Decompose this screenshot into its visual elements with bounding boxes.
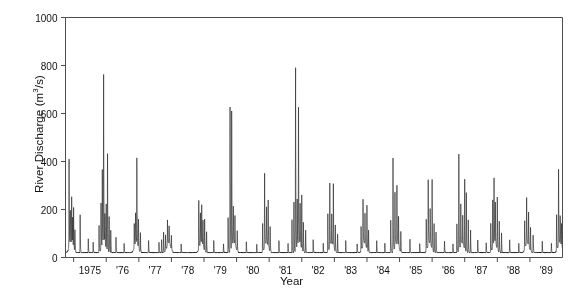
x-tick-label: '88 [507,265,520,276]
x-tick-label: '82 [312,265,325,276]
x-tick-label: '81 [279,265,292,276]
y-axis-title: River Discharge (m3/s) [33,14,45,254]
y-tick-label: 0 [24,252,58,263]
y-tick-label: 600 [24,108,58,119]
x-tick-label: '87 [474,265,487,276]
x-tick-label: '76 [116,265,129,276]
x-tick-label: '79 [214,265,227,276]
x-tick-label: '77 [149,265,162,276]
x-tick-label: '89 [540,265,553,276]
x-tick-label: '83 [344,265,357,276]
river-discharge-chart-figure: River Discharge (m3/s) Year 020040060080… [0,0,583,298]
y-tick-label: 1000 [24,12,58,23]
x-tick-label: '84 [377,265,390,276]
x-tick-label: '78 [181,265,194,276]
y-tick-label: 400 [24,156,58,167]
x-tick-label: '80 [246,265,259,276]
discharge-plot-canvas [0,0,583,298]
x-axis-title: Year [0,275,583,287]
y-tick-label: 800 [24,60,58,71]
x-tick-label: '85 [409,265,422,276]
x-tick-label: 1975 [79,265,101,276]
x-tick-label: '86 [442,265,455,276]
y-tick-label: 200 [24,204,58,215]
